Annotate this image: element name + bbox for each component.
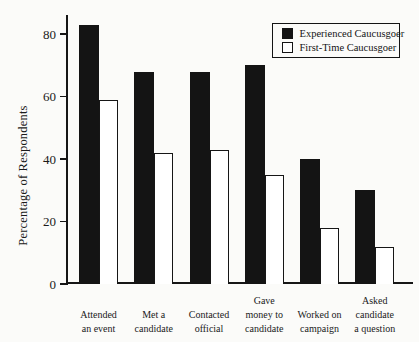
legend-row-experienced: Experienced Caucusgoer bbox=[282, 28, 399, 40]
bar-experienced-attended-an-event bbox=[79, 25, 99, 284]
bar-first-time-attended-an-event bbox=[99, 100, 118, 284]
legend-label-first-time: First-Time Caucusgoer bbox=[300, 42, 397, 53]
bar-experienced-asked-candidate-a-question bbox=[355, 190, 375, 284]
bar-first-time-gave-money-to-candidate bbox=[265, 175, 284, 284]
legend-swatch-solid-icon bbox=[282, 28, 293, 39]
bar-experienced-met-a-candidate bbox=[134, 72, 154, 285]
bar-chart-figure: Percentage of Respondents 020406080Atten… bbox=[0, 0, 419, 342]
bar-first-time-met-a-candidate bbox=[154, 153, 173, 284]
y-tick-label-40: 40 bbox=[28, 153, 56, 166]
bar-first-time-worked-on-campaign bbox=[320, 228, 339, 284]
legend-row-first-time: First-Time Caucusgoer bbox=[282, 42, 399, 54]
bar-experienced-worked-on-campaign bbox=[300, 159, 320, 284]
legend-label-experienced: Experienced Caucusgoer bbox=[300, 28, 405, 39]
bar-first-time-asked-candidate-a-question bbox=[375, 247, 394, 285]
category-label-asked-candidate-a-question: Askedcandidatea question bbox=[333, 294, 417, 336]
legend-swatch-outline-icon bbox=[282, 42, 293, 53]
y-tick-label-20: 20 bbox=[28, 215, 56, 228]
category-label-line: Asked bbox=[333, 294, 417, 308]
category-label-line: a question bbox=[333, 322, 417, 336]
category-label-line: candidate bbox=[333, 308, 417, 322]
bar-experienced-contacted-official bbox=[190, 72, 210, 285]
y-tick-label-60: 60 bbox=[28, 90, 56, 103]
y-axis-line bbox=[66, 15, 68, 284]
bar-experienced-gave-money-to-candidate bbox=[245, 65, 265, 284]
category-label-line: Gave bbox=[222, 294, 306, 308]
bar-first-time-contacted-official bbox=[210, 150, 229, 284]
y-tick-label-0: 0 bbox=[28, 278, 56, 291]
y-tick-label-80: 80 bbox=[28, 28, 56, 41]
legend: Experienced Caucusgoer First-Time Caucus… bbox=[272, 23, 400, 58]
